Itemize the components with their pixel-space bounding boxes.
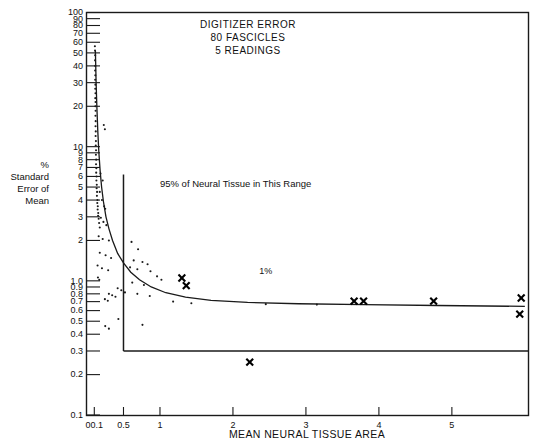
y-axis-title-line: Standard [10,171,49,182]
data-point [105,224,107,226]
data-point [99,191,101,193]
data-point [94,50,96,52]
chart-title-line: DIGITIZER ERROR [200,19,296,30]
data-point [94,105,96,107]
data-point [95,154,97,156]
data-point [316,304,318,306]
data-point [94,54,96,56]
data-point [94,84,96,86]
digitizer-error-scatter-chart: 100908070605040302010987654321.00.90.80.… [0,0,549,445]
x-markers [178,275,524,366]
chart-title-line: 80 FASCICLES [211,32,286,43]
data-point [94,97,96,99]
data-point [104,208,106,210]
data-point [117,287,119,289]
y-tick-label: 50 [73,48,83,58]
data-point [98,222,100,224]
data-point [97,212,99,214]
x-marker [360,298,367,305]
data-point [95,149,97,151]
y-tick-label: 0.1 [70,410,83,420]
y-tick-label: 30 [73,78,83,88]
data-point [141,261,143,263]
data-point [95,140,97,142]
data-point [149,270,151,272]
one-percent-annotation: 1% [259,266,272,276]
plot-frame [87,13,529,416]
y-tick-label: 0.3 [70,346,83,356]
range-annotation: 95% of Neural Tissue in This Range [160,178,311,189]
data-point [97,205,99,207]
data-point [94,59,96,61]
y-tick-label: 5 [78,182,83,192]
x-tick-label: 5 [449,420,454,430]
data-point [100,217,102,219]
x-marker [178,275,185,282]
data-point [98,235,100,237]
data-point [96,175,98,177]
data-point [103,205,105,207]
data-point [107,269,109,271]
data-point [99,252,101,254]
y-tick-label: 0.4 [70,329,83,339]
x-marker [183,282,190,289]
data-point [94,69,96,71]
data-point [104,325,106,327]
data-point [160,279,162,281]
y-tick-label: 3 [78,212,83,222]
data-point [96,202,98,204]
data-point [137,248,139,250]
data-point [102,179,104,181]
data-point [95,167,97,169]
chart-title-line: 5 READINGS [215,45,281,56]
chart-title: DIGITIZER ERROR80 FASCICLES5 READINGS [200,19,296,56]
data-point [95,172,97,174]
data-point [108,293,110,295]
data-point [156,275,158,277]
x-marker [351,298,358,305]
data-point [94,101,96,103]
reference-lines [123,175,528,351]
data-point [101,199,103,201]
data-point [190,302,192,304]
data-point [96,199,98,201]
data-point [107,300,109,302]
y-axis-title-line: % [41,159,50,170]
data-point [94,115,96,117]
x-marker [518,295,525,302]
data-point [96,184,98,186]
data-point [95,159,97,161]
data-point [97,208,99,210]
chart-page: 100908070605040302010987654321.00.90.80.… [0,0,549,445]
x-tick-label: 0.5 [117,420,130,430]
data-point [94,88,96,90]
data-point [105,254,107,256]
data-point [130,241,132,243]
x-marker [246,359,253,366]
data-point [147,263,149,265]
x-marker [516,311,523,318]
data-point [96,195,98,197]
data-point [99,226,101,228]
data-point [108,328,110,330]
y-axis-title-line: Error of [17,183,49,194]
data-point [94,65,96,67]
x-tick-label: 1 [157,420,162,430]
data-point [94,79,96,81]
data-point [131,282,133,284]
data-point [95,130,97,132]
data-point [97,215,99,217]
data-point [94,92,96,94]
data-point [117,318,119,320]
data-point [98,279,100,281]
data-point [103,124,105,126]
data-point [104,128,106,130]
y-tick-label: 6 [78,171,83,181]
chart-annotations: 95% of Neural Tissue in This Range1% [160,178,311,276]
data-point [94,125,96,127]
data-point [97,265,99,267]
data-point [133,259,135,261]
data-point [102,221,104,223]
data-point [136,268,138,270]
data-point [124,291,126,293]
